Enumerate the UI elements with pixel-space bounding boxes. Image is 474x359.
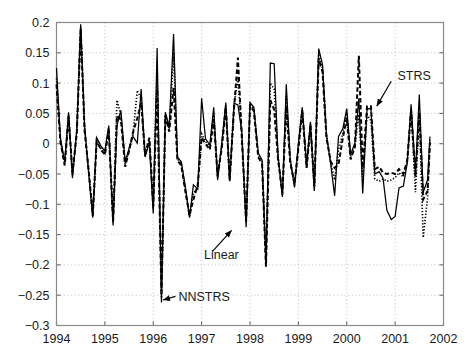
- time-series-chart: 0.20.150.10.050−0.05−0.1−0.15−0.2−0.25−0…: [0, 0, 474, 359]
- annotation-label-strs: STRS: [398, 69, 431, 83]
- y-axis-tick-label: −0.15: [18, 228, 50, 242]
- x-axis-tick-label: 1999: [284, 332, 312, 346]
- x-axis-tick-label: 2001: [381, 332, 409, 346]
- y-axis-tick-label: 0.1: [32, 77, 49, 91]
- x-axis-tick-label: 1998: [236, 332, 264, 346]
- chart-figure: 0.20.150.10.050−0.05−0.1−0.15−0.2−0.25−0…: [0, 0, 474, 359]
- y-axis-tick-label: 0.05: [25, 107, 49, 121]
- y-axis-tick-label: 0.15: [25, 46, 49, 60]
- x-axis-tick-label: 1994: [43, 332, 71, 346]
- annotations-group: STRSLinearNNSTRS: [163, 69, 431, 304]
- x-axis-tick-label: 1995: [91, 332, 119, 346]
- y-axis-tick-label: −0.25: [18, 289, 50, 303]
- annotation-label-nnstrs: NNSTRS: [178, 290, 229, 304]
- y-axis-tick-label: −0.2: [25, 258, 50, 272]
- data-series-group: [57, 24, 430, 302]
- x-axis-tick-label: 2002: [430, 332, 458, 346]
- annotation-label-linear: Linear: [204, 248, 239, 262]
- series-line-nnstrs: [57, 27, 430, 298]
- x-axis-tick-labels: 199419951996199719981999200020012002: [43, 332, 458, 346]
- annotation-arrowhead: [163, 295, 171, 301]
- y-axis-tick-label: 0.2: [32, 16, 49, 30]
- x-axis-tick-label: 1997: [188, 332, 216, 346]
- y-axis-tick-labels: 0.20.150.10.050−0.05−0.1−0.15−0.2−0.25−0…: [18, 16, 50, 333]
- x-axis-tick-label: 1996: [139, 332, 167, 346]
- y-axis-tick-label: −0.1: [25, 198, 50, 212]
- y-axis-tick-label: 0: [43, 137, 50, 151]
- y-axis-tick-label: −0.05: [18, 168, 50, 182]
- x-axis-tick-label: 2000: [333, 332, 361, 346]
- annotation-arrowhead: [377, 99, 383, 107]
